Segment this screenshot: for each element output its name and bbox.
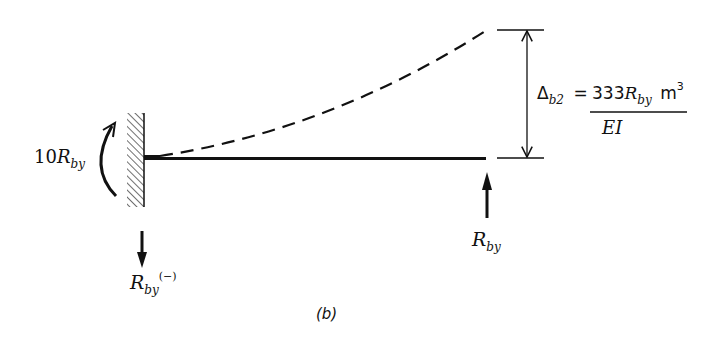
cantilever-beam-diagram: 10Rby Rby(−) Rby Δb2 = 333Rby m3 EI (b) <box>0 0 721 350</box>
right-reaction-sub: by <box>486 240 500 254</box>
left-reaction-sign: (−) <box>159 270 177 283</box>
delta-sub: b2 <box>549 93 564 107</box>
moment-label: 10Rby <box>34 146 85 167</box>
right-reaction-symbol: R <box>472 228 486 250</box>
moment-symbol: R <box>57 146 71 167</box>
right-reaction-label: Rby <box>472 228 501 250</box>
numerator-sub: by <box>637 93 651 107</box>
moment-arrow-icon <box>101 123 116 196</box>
figure-caption: (b) <box>316 305 337 323</box>
numerator-unit-exp: 3 <box>677 80 684 93</box>
fixed-support-wall <box>127 113 144 207</box>
numerator-coef: 333 <box>592 83 624 103</box>
left-reaction-arrow-icon <box>137 231 147 268</box>
beam <box>144 155 486 160</box>
right-reaction-arrow-icon <box>482 172 492 218</box>
left-reaction-sub: by <box>144 283 158 297</box>
moment-sub: by <box>70 157 84 171</box>
moment-coef: 10 <box>34 146 57 167</box>
deflection-lhs: Δb2 = <box>537 83 588 103</box>
equals-sign: = <box>573 83 587 103</box>
deflection-numerator: 333Rby m3 <box>592 83 684 103</box>
numerator-symbol: R <box>624 83 637 103</box>
delta-symbol: Δ <box>537 83 549 103</box>
deflected-shape-curve <box>160 30 487 156</box>
diagram-graphics <box>0 0 721 350</box>
numerator-unit: m <box>660 83 677 103</box>
deflection-denominator: EI <box>602 117 622 138</box>
left-reaction-label: Rby(−) <box>130 271 177 293</box>
left-reaction-symbol: R <box>130 271 144 293</box>
